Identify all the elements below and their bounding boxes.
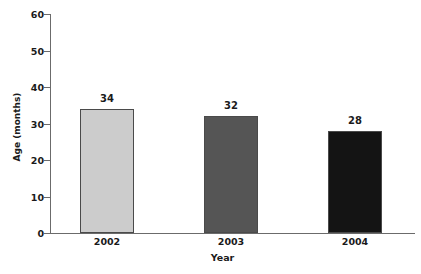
y-axis-tick-label: 20 <box>4 155 44 166</box>
y-axis-tick-mark <box>44 87 51 88</box>
y-axis-tick-label: 40 <box>4 82 44 93</box>
bar-value-label: 34 <box>100 93 114 104</box>
y-axis-tick-mark <box>44 51 51 52</box>
y-axis-tick-label: 50 <box>4 45 44 56</box>
y-axis-tick-label: 60 <box>4 9 44 20</box>
x-axis-title-label: Year <box>211 252 235 263</box>
y-axis-tick-mark <box>44 160 51 161</box>
y-axis-tick-mark <box>44 233 51 234</box>
x-axis-title: Year <box>0 252 421 263</box>
bar-chart: Age (months) 6050403020100 343228 200220… <box>0 0 421 274</box>
bar-value-label: 32 <box>224 100 238 111</box>
bar-value-label: 28 <box>348 115 362 126</box>
y-axis-tick-mark <box>44 14 51 15</box>
bar-2004 <box>328 131 382 233</box>
y-axis-tick-mark <box>44 197 51 198</box>
y-axis-tick-label: 10 <box>4 191 44 202</box>
x-axis-tick-label: 2002 <box>94 236 120 247</box>
bar-2002 <box>80 109 134 233</box>
y-axis-tick-mark <box>44 124 51 125</box>
x-axis-line <box>50 233 415 234</box>
y-axis-tick-label: 30 <box>4 118 44 129</box>
bar-2003 <box>204 116 258 233</box>
y-axis-tick-label: 0 <box>4 228 44 239</box>
x-axis-tick-label: 2004 <box>342 236 368 247</box>
x-axis-tick-label: 2003 <box>218 236 244 247</box>
